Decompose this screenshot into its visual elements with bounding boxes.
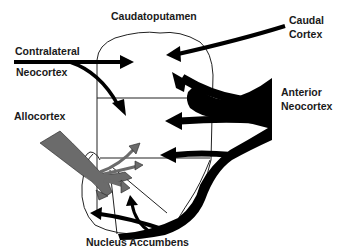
label-anterior-line1: Anterior: [281, 86, 322, 99]
caudal-cortex-arrow: [166, 26, 285, 62]
label-anterior-line2: Neocortex: [281, 100, 332, 113]
label-contralateral-line1: Contralateral: [15, 45, 80, 58]
label-contralateral-line2: Neocortex: [16, 66, 67, 79]
contralateral-curved-arrow: [70, 62, 126, 116]
label-caudatoputamen: Caudatoputamen: [111, 10, 197, 23]
label-nucleus-accumbens: Nucleus Accumbens: [86, 236, 189, 249]
label-caudal-cortex-line2: Cortex: [289, 28, 322, 41]
allocortex-projection: [40, 131, 143, 200]
label-caudal-cortex-line1: Caudal: [289, 14, 324, 27]
label-allocortex: Allocortex: [14, 110, 65, 123]
